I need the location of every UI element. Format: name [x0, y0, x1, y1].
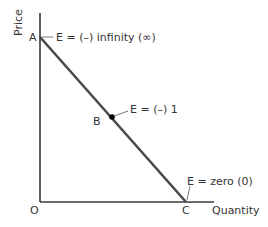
point-b-label: B	[93, 115, 101, 128]
leader-b	[114, 111, 128, 116]
annotation-c: E = zero (0)	[187, 175, 253, 188]
origin-label: O	[30, 204, 39, 217]
annotation-a: E = (–) infinity (∞)	[56, 31, 156, 44]
leader-c	[187, 186, 190, 200]
x-axis-label: Quantity	[212, 204, 260, 217]
annotation-b: E = (–) 1	[130, 103, 178, 116]
point-c-label: C	[182, 204, 190, 217]
point-b-marker	[109, 114, 115, 120]
point-a-label: A	[29, 31, 37, 44]
elasticity-chart: Price Quantity O A B C E = (–) infinity …	[0, 0, 268, 227]
y-axis-label: Price	[12, 9, 25, 36]
